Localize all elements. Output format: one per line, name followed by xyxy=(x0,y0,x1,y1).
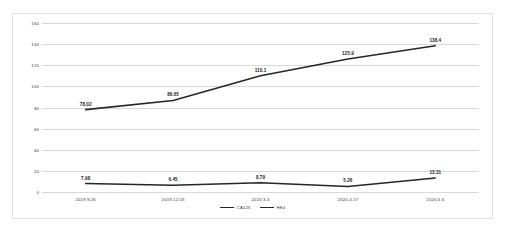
data-point-label: 6.45 xyxy=(169,177,178,182)
data-point-label: 5.26 xyxy=(343,178,352,183)
data-point-label: 110.1 xyxy=(255,68,267,73)
y-axis-tick-label: 0 xyxy=(36,190,39,195)
data-point-label: 125.9 xyxy=(342,51,354,56)
data-point-label: 7.98 xyxy=(81,176,90,181)
chart-legend: CA125HE4 xyxy=(13,205,492,210)
series-lines xyxy=(42,23,479,192)
x-axis-tick-label: 2019.9.26 xyxy=(75,197,95,202)
y-axis-tick-label: 160 xyxy=(31,21,39,26)
y-axis-tick-label: 20 xyxy=(34,168,39,173)
legend-swatch-icon xyxy=(220,207,234,209)
legend-item[interactable]: HE4 xyxy=(260,205,286,210)
y-axis-tick-label: 40 xyxy=(34,147,39,152)
x-axis-tick-label: 2020.3.4 xyxy=(252,197,270,202)
data-point-label: 8.79 xyxy=(256,175,265,180)
data-point-label: 78.02 xyxy=(80,102,92,107)
y-axis-tick-label: 120 xyxy=(31,63,39,68)
x-axis-tick-label: 2020.6.6 xyxy=(426,197,444,202)
y-axis-tick-label: 100 xyxy=(31,84,39,89)
y-axis-tick-label: 60 xyxy=(34,126,39,131)
y-axis-tick-label: 80 xyxy=(34,105,39,110)
series-line-ca125 xyxy=(86,46,436,110)
legend-item[interactable]: CA125 xyxy=(220,205,251,210)
y-axis-tick-label: 140 xyxy=(31,42,39,47)
x-axis-tick-label: 2019.12.03 xyxy=(162,197,185,202)
legend-swatch-icon xyxy=(260,207,274,209)
data-point-label: 138.4 xyxy=(429,38,441,43)
data-point-label: 13.31 xyxy=(429,170,441,175)
x-axis-tick-label: 2020.4.17 xyxy=(338,197,358,202)
gridline xyxy=(42,192,479,193)
plot-area: 160140120100806040200 78.0286.65110.1125… xyxy=(42,23,479,192)
chart-container: 160140120100806040200 78.0286.65110.1125… xyxy=(12,13,493,219)
legend-label: CA125 xyxy=(237,205,251,210)
data-point-label: 86.65 xyxy=(167,92,179,97)
legend-label: HE4 xyxy=(277,205,286,210)
